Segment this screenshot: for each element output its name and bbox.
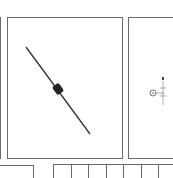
table-cell	[124, 165, 142, 178]
diagram-overlay	[0, 0, 173, 178]
table-cell	[89, 165, 107, 178]
table-cell	[72, 165, 90, 178]
table-cell	[107, 165, 125, 178]
table-cell	[159, 165, 173, 178]
table-cell	[54, 165, 72, 178]
diode-icon	[26, 47, 90, 134]
dimension-symbol-icon	[150, 77, 166, 105]
table-cell	[142, 165, 160, 178]
spec-table	[53, 164, 173, 178]
